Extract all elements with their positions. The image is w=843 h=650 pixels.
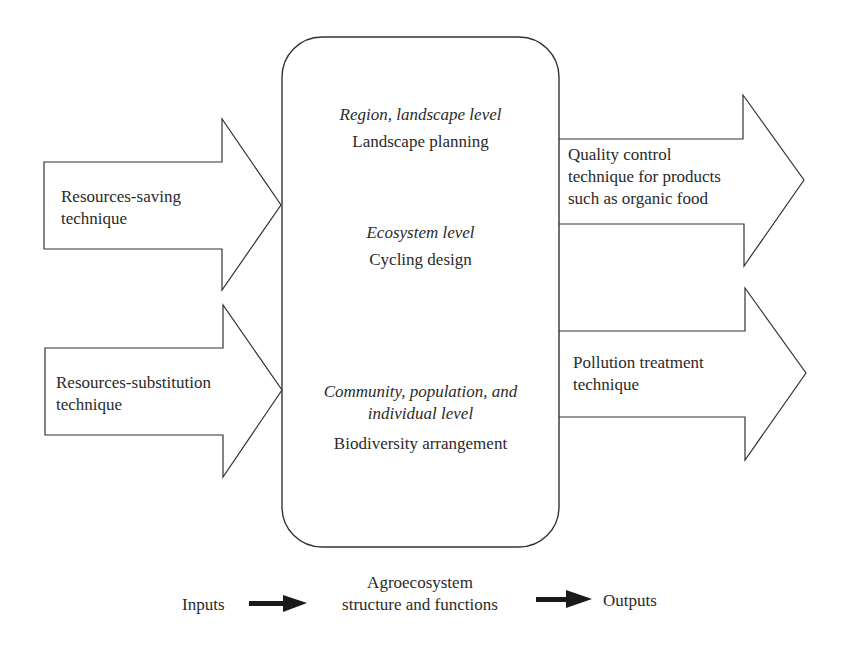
level-community-population-individual: Community, population, and individual le…: [282, 381, 559, 425]
legend-arrow-inputs: [249, 595, 307, 612]
level-region-landscape: Region, landscape level: [282, 104, 559, 126]
output-label-line: such as organic food: [568, 188, 721, 210]
practice-biodiversity-arrangement: Biodiversity arrangement: [282, 433, 559, 455]
input-label-resources-saving: Resources-saving technique: [61, 186, 181, 230]
output-label-pollution-treatment: Pollution treatment technique: [573, 352, 704, 396]
practice-landscape-planning: Landscape planning: [282, 131, 559, 153]
output-label-line: Pollution treatment: [573, 352, 704, 374]
output-label-line: Quality control: [568, 144, 721, 166]
legend-agroecosystem: Agroecosystem structure and functions: [310, 572, 530, 616]
level-line: Community, population, and: [282, 381, 559, 403]
legend-outputs: Outputs: [603, 590, 657, 612]
legend-line: Agroecosystem: [310, 572, 530, 594]
input-label-resources-substitution: Resources-substitution technique: [56, 372, 211, 416]
level-ecosystem: Ecosystem level: [282, 222, 559, 244]
practice-cycling-design: Cycling design: [282, 249, 559, 271]
legend-arrow-outputs: [536, 590, 592, 608]
input-label-line: Resources-substitution: [56, 372, 211, 394]
legend-line: structure and functions: [310, 594, 530, 616]
diagram-shapes: [0, 0, 843, 650]
output-label-line: technique for products: [568, 166, 721, 188]
output-label-quality-control: Quality control technique for products s…: [568, 144, 721, 210]
input-label-line: Resources-saving: [61, 186, 181, 208]
output-label-line: technique: [573, 374, 704, 396]
level-line: individual level: [282, 403, 559, 425]
input-label-line: technique: [61, 208, 181, 230]
legend-inputs: Inputs: [182, 594, 225, 616]
input-label-line: technique: [56, 394, 211, 416]
